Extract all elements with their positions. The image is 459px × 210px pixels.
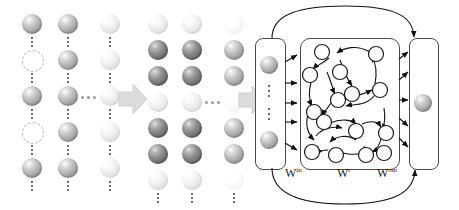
- figure-canvas: Win Wr Wout: [0, 0, 459, 210]
- reservoir-node: [333, 65, 348, 80]
- w-out-label: Wout: [377, 166, 397, 181]
- reservoir-node: [317, 115, 332, 130]
- feedback-arc-top: [272, 6, 414, 38]
- reservoir-edge: [337, 47, 370, 53]
- reservoir-node: [359, 148, 374, 163]
- w-out-edge: [399, 118, 408, 126]
- reservoir-edge: [362, 122, 381, 127]
- reservoir-node: [331, 93, 346, 108]
- reservoir-edge: [330, 120, 356, 124]
- w-out-edge: [399, 138, 408, 147]
- reservoir-node: [349, 124, 364, 139]
- reservoir-node: [315, 45, 330, 60]
- reservoir-node: [305, 145, 320, 160]
- w-in-label: Win: [285, 166, 302, 181]
- reservoir-node: [345, 87, 360, 102]
- w-out-edge: [399, 52, 408, 59]
- w-in-edge: [285, 143, 297, 150]
- w-out-edge: [399, 72, 408, 80]
- reservoir-edge: [309, 82, 312, 106]
- reservoir-node: [329, 148, 344, 163]
- w-in-edge: [285, 55, 297, 62]
- reservoir-node: [379, 126, 394, 141]
- reservoir-node: [377, 146, 392, 161]
- reservoir-node: [303, 68, 318, 83]
- w-res-label: Wr: [337, 166, 351, 181]
- reservoir-node: [373, 83, 388, 98]
- reservoir-node: [369, 47, 384, 62]
